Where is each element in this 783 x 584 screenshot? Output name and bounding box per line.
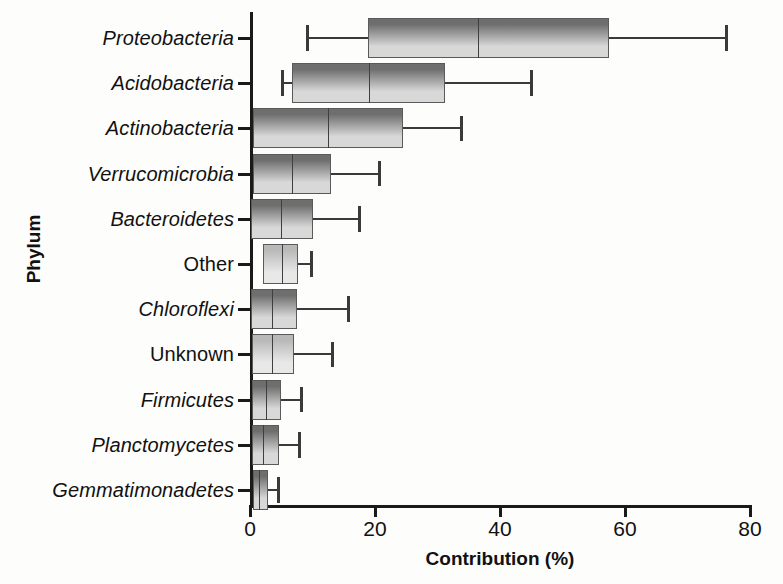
whisker-upper (313, 218, 359, 220)
y-axis-title: Phylum (23, 189, 45, 309)
whisker-upper (445, 82, 530, 84)
median-line (478, 18, 479, 58)
whisker-upper (279, 444, 298, 446)
median-line (282, 244, 283, 284)
whisker-cap-upper (331, 342, 334, 368)
box-plot-chart: ProteobacteriaAcidobacteriaActinobacteri… (0, 0, 783, 584)
x-axis-title: Contribution (%) (250, 548, 750, 570)
whisker-upper (609, 37, 725, 39)
whisker-upper (331, 173, 378, 175)
median-line (328, 108, 329, 148)
box-iqr[interactable] (368, 18, 610, 58)
whisker-cap-upper (530, 70, 533, 96)
whisker-upper (294, 353, 332, 355)
box-iqr[interactable] (253, 470, 269, 510)
whisker-cap-lower (306, 25, 309, 51)
median-line (281, 199, 282, 239)
whisker-upper (403, 127, 460, 129)
median-line (272, 289, 273, 329)
median-line (263, 425, 264, 465)
whisker-cap-upper (725, 25, 728, 51)
whisker-cap-upper (298, 432, 301, 458)
whisker-upper (281, 399, 300, 401)
whisker-upper (298, 263, 310, 265)
box-iqr[interactable] (263, 244, 298, 284)
whisker-cap-upper (310, 251, 313, 277)
box-iqr[interactable] (252, 425, 280, 465)
whisker-cap-upper (378, 161, 381, 187)
median-line (259, 470, 260, 510)
median-line (266, 380, 267, 420)
whisker-upper (297, 308, 347, 310)
whisker-cap-upper (347, 296, 350, 322)
whisker-cap-upper (460, 116, 463, 142)
whisker-lower (306, 37, 367, 39)
median-line (292, 154, 293, 194)
plot-area (0, 0, 783, 584)
whisker-cap-upper (277, 477, 280, 503)
median-line (369, 63, 370, 103)
whisker-upper (268, 489, 277, 491)
whisker-cap-upper (300, 387, 303, 413)
box-iqr[interactable] (251, 289, 297, 329)
whisker-cap-upper (358, 206, 361, 232)
median-line (272, 334, 273, 374)
whisker-cap-lower (281, 70, 284, 96)
